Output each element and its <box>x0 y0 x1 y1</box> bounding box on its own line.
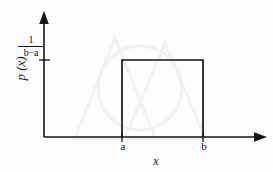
x-tick-label-a: a <box>116 141 130 152</box>
y-axis-arrow-icon <box>39 11 49 24</box>
uniform-distribution-chart: p (x) 1 b−a a b x <box>0 0 274 172</box>
plot-canvas <box>0 0 274 172</box>
x-tick-label-b: b <box>197 141 211 152</box>
x-axis-label: x <box>148 155 164 167</box>
x-axis-arrow-icon <box>254 132 267 142</box>
uniform-pdf-rectangle <box>122 60 203 137</box>
fraction-denominator: b−a <box>18 47 44 58</box>
fraction-numerator: 1 <box>18 35 44 47</box>
y-tick-label-fraction: 1 b−a <box>18 35 44 58</box>
